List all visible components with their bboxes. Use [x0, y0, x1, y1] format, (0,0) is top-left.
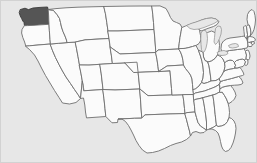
frame-left-edge — [0, 0, 1, 163]
state-washington[interactable] — [19, 7, 49, 26]
state-wyoming[interactable] — [76, 39, 113, 66]
state-oregon[interactable] — [22, 24, 51, 46]
us-map-figure — [0, 0, 257, 163]
lake-superior — [187, 18, 219, 30]
frame-right-edge — [256, 0, 257, 163]
state-new-mexico[interactable] — [103, 89, 142, 123]
state-arkansas[interactable] — [183, 95, 195, 114]
lake-huron — [214, 26, 222, 45]
state-minnesota[interactable] — [152, 6, 182, 53]
us-states-map — [0, 0, 257, 163]
state-north-dakota[interactable] — [104, 6, 154, 31]
frame-top-edge — [0, 0, 257, 1]
state-connecticut[interactable] — [248, 42, 253, 47]
frame-bottom-edge — [0, 162, 257, 163]
state-texas[interactable] — [118, 114, 191, 154]
state-new-jersey[interactable] — [246, 50, 251, 60]
